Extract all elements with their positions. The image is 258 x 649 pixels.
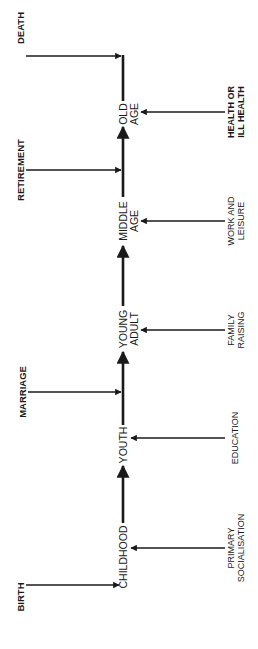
influence-work-leisure-line2: LEISURE [236, 202, 246, 241]
stage-childhood: CHILDHOOD [117, 525, 129, 588]
influence-primary-socialisation-line1: PRIMARY [226, 528, 236, 569]
influence-primary-socialisation: PRIMARY SOCIALISATION [131, 514, 246, 582]
stage-labels: CHILDHOOD YOUTH YOUNG ADULT MIDDLE AGE O… [117, 103, 140, 589]
event-retirement-label: RETIREMENT [15, 139, 26, 201]
event-birth-label: BIRTH [15, 582, 26, 611]
event-death-label: DEATH [15, 12, 26, 44]
influence-health: HEALTH OR ILL HEALTH [141, 86, 246, 138]
stage-youth: YOUTH [117, 427, 129, 464]
life-course-diagram: CHILDHOOD YOUTH YOUNG ADULT MIDDLE AGE O… [0, 0, 258, 649]
event-death: DEATH [15, 12, 121, 56]
influences: HEALTH OR ILL HEALTH WORK AND LEISURE FA… [131, 86, 246, 583]
influence-education: EDUCATION [131, 412, 240, 464]
influence-education-label: EDUCATION [230, 412, 240, 464]
influence-work-leisure-line1: WORK AND [226, 196, 236, 246]
stage-middle-age-line2: AGE [128, 210, 140, 232]
stage-old-age-line2: AGE [128, 103, 140, 125]
influence-primary-socialisation-line2: SOCIALISATION [236, 514, 246, 582]
event-marriage: MARRIAGE [17, 366, 121, 418]
influence-health-line1: HEALTH OR [226, 86, 236, 138]
event-retirement: RETIREMENT [15, 139, 121, 201]
stage-young-adult-line2: ADULT [128, 312, 140, 346]
influence-family-raising-line2: RAISING [236, 311, 246, 348]
influence-work-leisure: WORK AND LEISURE [141, 196, 246, 246]
event-birth: BIRTH [15, 582, 119, 611]
life-events: DEATH RETIREMENT MARRIAGE BIRTH [15, 12, 121, 612]
event-marriage-label: MARRIAGE [17, 366, 28, 418]
influence-family-raising-line1: FAMILY [226, 314, 236, 345]
influence-health-line2: ILL HEALTH [236, 86, 246, 138]
influence-family-raising: FAMILY RAISING [141, 311, 246, 348]
